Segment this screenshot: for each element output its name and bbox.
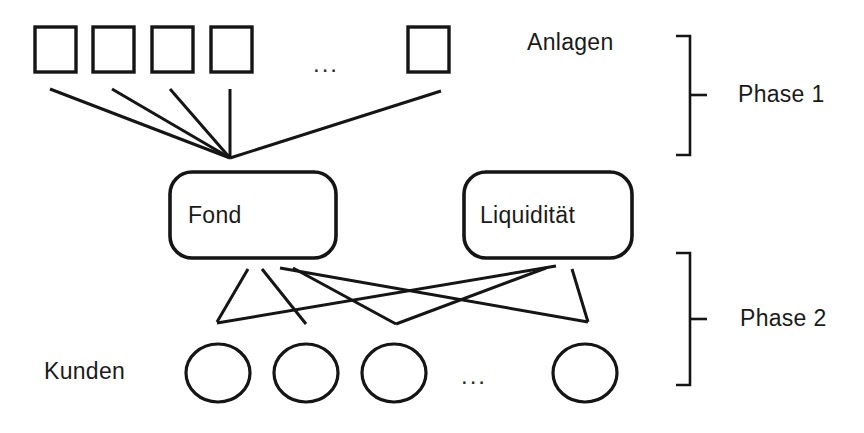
- customer-circle-2[interactable]: [274, 344, 338, 402]
- customer-circle-4[interactable]: [553, 344, 617, 402]
- edge-fund-customer4: [280, 268, 588, 322]
- phase-two-label: Phase 2: [740, 307, 827, 330]
- assets-row: ...: [35, 27, 449, 77]
- fund-node[interactable]: Fond: [170, 172, 336, 258]
- edge-asset2-fund: [112, 89, 230, 158]
- edge-asset1-fund: [50, 89, 230, 158]
- phase1-bracket-path: [676, 36, 690, 155]
- liquidity-node[interactable]: Liquidität: [464, 172, 632, 258]
- liquidity-node-label: Liquidität: [480, 202, 575, 228]
- customer-circle-1[interactable]: [186, 344, 250, 402]
- customers-ellipsis: ...: [461, 362, 487, 389]
- customer-circle-3[interactable]: [362, 344, 426, 402]
- edge-asset5-fund: [230, 91, 441, 158]
- asset-square-4[interactable]: [211, 27, 252, 72]
- diagram-svg: ... Fond Liquidität: [0, 0, 864, 433]
- customers-row: ...: [186, 344, 617, 402]
- diagram-canvas: ... Fond Liquidität: [0, 0, 864, 433]
- assets-ellipsis: ...: [313, 50, 339, 77]
- fund-node-label: Fond: [188, 202, 242, 228]
- asset-square-5[interactable]: [408, 27, 449, 72]
- phase2-bracket-path: [676, 253, 690, 385]
- phase2-edge-group: [217, 266, 588, 324]
- assets-row-label: Anlagen: [527, 31, 614, 54]
- phase1-edge-group: [50, 89, 441, 158]
- edge-liquidity-customer4: [572, 269, 588, 322]
- phase1-bracket: [676, 36, 707, 155]
- edge-fund-customer1: [217, 269, 248, 322]
- asset-square-1[interactable]: [35, 27, 76, 72]
- phase2-bracket: [676, 253, 707, 385]
- asset-square-3[interactable]: [152, 27, 193, 72]
- edge-liquidity-customer3: [396, 268, 546, 324]
- customers-row-label: Kunden: [44, 360, 125, 383]
- phase-one-label: Phase 1: [738, 83, 825, 106]
- asset-square-2[interactable]: [93, 27, 134, 72]
